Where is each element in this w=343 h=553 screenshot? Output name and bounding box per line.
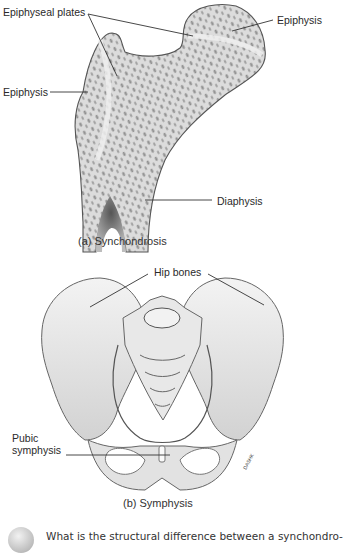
label-hip-bones: Hip bones xyxy=(154,266,201,278)
label-pubic: Pubic xyxy=(12,432,38,444)
caption-synchondrosis: (a) Synchondrosis xyxy=(78,235,167,247)
label-epiphysis-right: Epiphysis xyxy=(277,14,322,26)
label-epiphyseal-plates: Epiphyseal plates xyxy=(3,6,85,18)
label-symphysis: symphysis xyxy=(12,444,61,456)
artist-signature: DASHK xyxy=(242,452,256,471)
question-bubble-icon xyxy=(8,527,34,553)
femur-illustration xyxy=(75,5,265,253)
label-diaphysis: Diaphysis xyxy=(217,195,263,207)
caption-symphysis: (b) Symphysis xyxy=(123,497,193,509)
question-text: What is the structural difference betwee… xyxy=(46,530,343,542)
label-epiphysis-left: Epiphysis xyxy=(3,86,48,98)
